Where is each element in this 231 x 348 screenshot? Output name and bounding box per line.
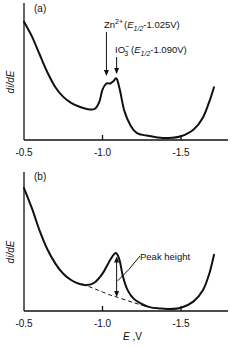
panel-a: (a) di/dE -0.5-1.0-1.5 Zn2+(E1/2-1.025V)… (5, 3, 228, 158)
panel-b-x-tick-label: -0.5 (15, 318, 33, 329)
panel-a-x-tick-label: -1.0 (94, 147, 112, 158)
zn-half-subscript: 1/2 (134, 25, 144, 32)
panel-a-x-tick-label: -1.5 (172, 147, 190, 158)
io3-charge: − (125, 43, 129, 50)
polarogram-figure: (a) di/dE -0.5-1.0-1.5 Zn2+(E1/2-1.025V)… (0, 0, 231, 348)
io3-annotation: IO−3(E1/2-1.090V) (115, 43, 187, 57)
panel-a-x-tick-label: -0.5 (15, 147, 33, 158)
panel-b-y-axis-label: di/dE (5, 240, 16, 263)
peak-height-label: Peak height (140, 251, 191, 262)
io3-subscript: 3 (124, 50, 128, 57)
io3-e-half-value: -1.090V) (150, 44, 186, 55)
panel-b-x-axis-label: E ,V (123, 331, 142, 342)
panel-b-x-tick-label: -1.0 (94, 318, 112, 329)
panel-b-x-tick-label: -1.5 (172, 318, 190, 329)
zn-e-half-value: -1.025V) (143, 19, 179, 30)
zn-arrow-head (104, 70, 109, 76)
zn-charge: 2+ (115, 18, 123, 25)
panel-b-label: (b) (34, 171, 46, 182)
x-axis-unit: ,V (130, 331, 143, 342)
zn-annotation: Zn2+(E1/2-1.025V) (104, 18, 180, 32)
zn-species: Zn (104, 19, 115, 30)
io3-arrow-head (114, 68, 119, 74)
panel-b: (b) di/dE -0.5-1.0-1.5 Peak height E ,V (5, 171, 228, 342)
panel-a-y-axis-label: di/dE (5, 70, 16, 93)
panel-b-series (24, 188, 214, 309)
panel-a-curve-line (24, 22, 214, 138)
panel-a-series (24, 22, 214, 138)
io3-half-subscript: 1/2 (141, 50, 151, 57)
panel-a-label: (a) (34, 3, 46, 14)
panel-b-curve-line (24, 188, 214, 309)
